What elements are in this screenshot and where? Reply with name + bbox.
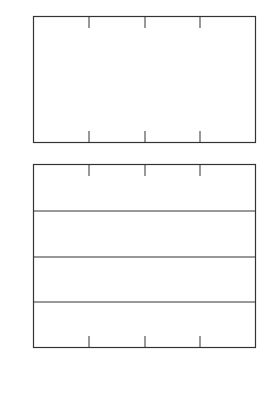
bottom-panels (34, 165, 256, 348)
top-panel (34, 17, 256, 143)
bottom-panel-ticks (89, 165, 200, 348)
top-panel-ticks (89, 17, 200, 143)
population-figure (0, 0, 277, 393)
